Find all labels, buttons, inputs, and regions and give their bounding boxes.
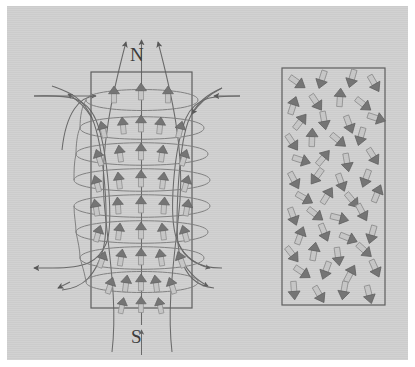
random-domain-arrow: [285, 95, 302, 116]
random-domain-arrow: [313, 147, 334, 169]
random-domain-arrow: [282, 244, 303, 266]
random-domain-arrow: [338, 229, 360, 247]
random-domain-arrow: [315, 222, 333, 244]
random-domain-arrow: [363, 146, 383, 168]
aligned-domain-arrows: [89, 83, 194, 314]
random-domain-arrow: [306, 92, 326, 114]
north-pole-label: N: [130, 45, 144, 64]
random-domain-arrow: [294, 189, 316, 209]
random-domain-arrow: [336, 280, 351, 300]
random-domain-arrow: [287, 281, 300, 300]
random-domain-arrow: [332, 172, 350, 193]
random-domain-arrow: [361, 284, 377, 305]
random-domain-arrow: [306, 166, 327, 188]
diagram-vector-layer: [0, 0, 415, 367]
south-pole-label: S: [131, 327, 142, 346]
random-domain-arrow: [317, 260, 335, 281]
random-domain-arrow: [282, 132, 302, 154]
random-domain-arrow: [365, 73, 385, 95]
random-domain-arrow: [310, 284, 330, 306]
random-domain-arrow: [344, 68, 361, 89]
random-domain-arrow: [366, 110, 387, 127]
random-domain-arrow: [305, 204, 327, 225]
figure-canvas: N S: [0, 0, 415, 367]
random-domain-arrow: [317, 184, 337, 206]
random-domain-arrow: [306, 128, 319, 147]
random-domain-arrows: [282, 68, 387, 305]
random-domain-arrow: [340, 152, 355, 172]
random-domain-arrow: [329, 210, 350, 226]
random-domain-arrow: [291, 152, 312, 169]
random-domain-arrow: [366, 258, 384, 280]
random-domain-arrow: [368, 183, 386, 205]
random-domain-arrow: [353, 94, 375, 115]
random-domain-arrow: [354, 240, 376, 261]
random-domain-arrow: [328, 130, 350, 151]
random-domain-arrow: [353, 126, 370, 147]
random-domain-arrow: [357, 168, 375, 189]
random-domain-arrow: [292, 262, 314, 282]
random-domain-arrow: [331, 247, 345, 267]
random-domain-arrow: [340, 114, 358, 135]
random-domain-arrow: [333, 88, 346, 107]
random-domain-arrow: [364, 224, 381, 245]
random-domain-arrow: [307, 241, 322, 261]
random-domain-arrow: [285, 170, 304, 192]
random-domain-arrow: [287, 72, 309, 92]
random-domain-arrow: [284, 206, 302, 227]
random-domain-arrow: [317, 110, 332, 130]
random-domain-arrow: [313, 69, 330, 90]
random-domain-arrow: [291, 225, 309, 246]
